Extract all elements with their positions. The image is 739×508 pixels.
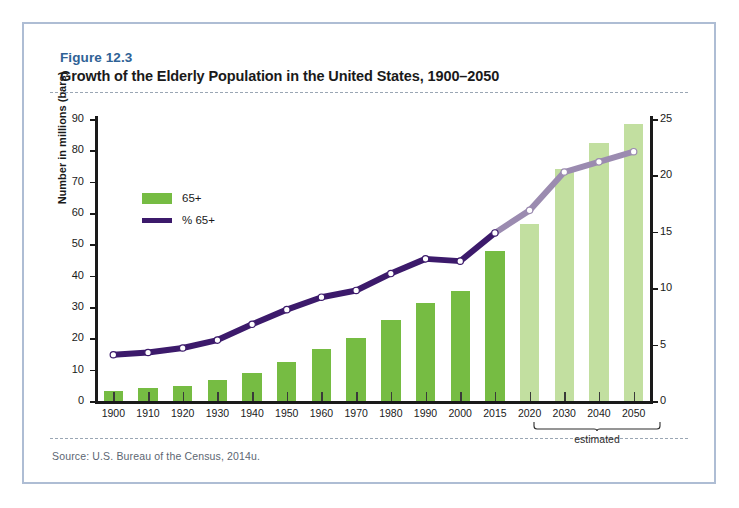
y-axis-right-tick-mark: [653, 119, 658, 121]
x-axis-tick-mark: [183, 392, 185, 401]
x-axis-tick-label: 2050: [612, 407, 656, 419]
x-axis-tick-mark: [634, 392, 636, 401]
y-axis-left-tick-label: 10: [72, 363, 84, 375]
figure-page: Figure 12.3 Growth of the Elderly Popula…: [0, 0, 739, 508]
y-axis-left-tick-label: 60: [72, 206, 84, 218]
line-segment: [495, 152, 634, 233]
line-data-point: [110, 352, 116, 358]
figure-frame: Figure 12.3 Growth of the Elderly Popula…: [22, 22, 716, 484]
y-axis-left-tick-label: 40: [72, 269, 84, 281]
line-data-point: [180, 345, 186, 351]
line-data-point: [145, 349, 151, 355]
x-axis-tick-mark: [113, 392, 115, 401]
x-axis-tick-mark: [252, 392, 254, 401]
chart-legend: 65+ % 65+: [142, 189, 215, 233]
x-axis-tick-mark: [564, 392, 566, 401]
x-axis-tick-mark: [599, 392, 601, 401]
line-data-point: [630, 149, 636, 155]
line-data-point: [284, 306, 290, 312]
x-axis-tick-mark: [148, 392, 150, 401]
x-axis-tick-mark: [460, 392, 462, 401]
line-data-point: [492, 230, 498, 236]
line-data-point: [318, 294, 324, 300]
x-axis-tick-mark: [530, 392, 532, 401]
line-segment: [113, 233, 495, 355]
x-axis-tick-mark: [321, 392, 323, 401]
line-data-point: [353, 287, 359, 293]
line-data-point: [457, 258, 463, 264]
axis-right: [650, 116, 653, 404]
y-axis-right-tick-label: 5: [660, 338, 666, 350]
axis-bottom: [95, 401, 653, 404]
line-data-point: [214, 337, 220, 343]
y-axis-right-tick-label: 0: [660, 394, 666, 406]
axis-left: [95, 116, 98, 404]
y-axis-right-tick-mark: [653, 345, 658, 347]
y-axis-right-tick-mark: [653, 401, 658, 403]
y-axis-left-tick-label: 30: [72, 300, 84, 312]
line-data-point: [249, 321, 255, 327]
y-axis-right-tick-label: 25: [660, 112, 672, 124]
y-axis-left-tick-label: 0: [78, 394, 84, 406]
line-data-point: [422, 256, 428, 262]
x-axis-tick-mark: [217, 392, 219, 401]
y-axis-right-tick-label: 15: [660, 225, 672, 237]
line-data-point: [526, 207, 532, 213]
x-axis-tick-mark: [287, 392, 289, 401]
y-axis-left-tick-label: 70: [72, 175, 84, 187]
legend-label-pct65plus: % 65+: [182, 214, 215, 226]
chart-area: Number in millions (bars) Percentage of …: [24, 24, 718, 486]
legend-swatch-65plus-icon: [142, 193, 172, 204]
x-axis-tick-mark: [391, 392, 393, 401]
y-axis-left-tick-label: 50: [72, 237, 84, 249]
legend-item-bars: 65+: [142, 189, 215, 207]
line-data-point: [388, 270, 394, 276]
y-axis-left-title: Number in millions (bars): [56, 38, 68, 238]
y-axis-left-tick-label: 80: [72, 143, 84, 155]
legend-label-65plus: 65+: [182, 192, 202, 204]
legend-item-line: % 65+: [142, 211, 215, 229]
y-axis-right-tick-mark: [653, 175, 658, 177]
estimated-label: estimated: [533, 433, 661, 445]
y-axis-right-tick-label: 20: [660, 168, 672, 180]
legend-swatch-pct65plus-icon: [142, 218, 172, 223]
plot-region: [96, 119, 651, 401]
line-data-point: [561, 169, 567, 175]
y-axis-right-tick-label: 10: [660, 281, 672, 293]
x-axis-tick-mark: [426, 392, 428, 401]
y-axis-right-tick-mark: [653, 232, 658, 234]
line-series: [96, 119, 651, 401]
line-data-point: [596, 159, 602, 165]
y-axis-left-tick-label: 90: [72, 112, 84, 124]
y-axis-right-tick-mark: [653, 288, 658, 290]
x-axis-tick-mark: [356, 392, 358, 401]
y-axis-left-tick-label: 20: [72, 331, 84, 343]
x-axis-tick-mark: [495, 392, 497, 401]
estimated-bracket: [533, 422, 661, 431]
